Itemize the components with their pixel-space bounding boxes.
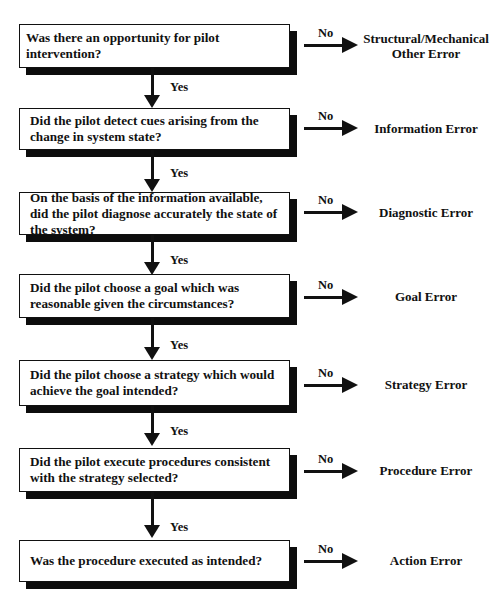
yes-label: Yes: [170, 520, 188, 535]
outcome-information-error: Information Error: [358, 121, 494, 136]
no-label: No: [318, 366, 333, 381]
arrow-down-icon: [144, 525, 160, 538]
arrow-right-icon: [342, 463, 358, 479]
arrow-down-icon: [144, 433, 160, 446]
no-arrow-shaft: [304, 44, 344, 47]
yes-label: Yes: [170, 166, 188, 181]
no-label: No: [318, 26, 333, 41]
yes-label: Yes: [170, 80, 188, 95]
no-label: No: [318, 109, 333, 124]
decision-text: Did the pilot choose a goal which was re…: [30, 280, 279, 312]
decision-text: Did the pilot detect cues arising from t…: [30, 113, 279, 145]
no-label: No: [318, 542, 333, 557]
decision-text: Was the procedure executed as intended?: [30, 553, 262, 569]
arrow-right-icon: [342, 204, 358, 220]
decision-box-execute-procedures: Did the pilot execute procedures consist…: [19, 448, 290, 492]
arrow-right-icon: [342, 289, 358, 305]
yes-arrow-shaft: [151, 406, 154, 436]
decision-box-choose-strategy: Did the pilot choose a strategy which wo…: [19, 360, 290, 406]
no-arrow-shaft: [304, 470, 344, 473]
yes-label: Yes: [170, 338, 188, 353]
decision-box-detect-cues: Did the pilot detect cues arising from t…: [19, 108, 290, 150]
no-label: No: [318, 452, 333, 467]
yes-arrow-shaft: [151, 150, 154, 182]
yes-label: Yes: [170, 253, 188, 268]
arrow-right-icon: [342, 37, 358, 53]
no-label: No: [318, 193, 333, 208]
no-label: No: [318, 278, 333, 293]
decision-text: Was there an opportunity for pilot inter…: [26, 30, 283, 62]
decision-text: Did the pilot execute procedures consist…: [30, 454, 279, 486]
yes-arrow-shaft: [151, 68, 154, 98]
decision-box-pilot-intervention: Was there an opportunity for pilot inter…: [19, 24, 290, 68]
no-arrow-shaft: [304, 384, 344, 387]
arrow-down-icon: [144, 95, 160, 108]
yes-arrow-shaft: [151, 492, 154, 528]
outcome-diagnostic-error: Diagnostic Error: [358, 205, 494, 220]
outcome-action-error: Action Error: [358, 553, 494, 568]
decision-box-procedure-executed: Was the procedure executed as intended?: [19, 540, 290, 582]
no-arrow-shaft: [304, 560, 344, 563]
decision-text: On the basis of the information availabl…: [30, 190, 279, 238]
outcome-structural-mechanical-error: Structural/Mechanical Other Error: [358, 31, 494, 61]
decision-box-choose-goal: Did the pilot choose a goal which was re…: [19, 274, 290, 318]
no-arrow-shaft: [304, 211, 344, 214]
arrow-right-icon: [342, 553, 358, 569]
arrow-right-icon: [342, 120, 358, 136]
outcome-line-1: Structural/Mechanical: [358, 31, 494, 46]
decision-box-diagnose-state: On the basis of the information availabl…: [19, 192, 290, 235]
no-arrow-shaft: [304, 296, 344, 299]
yes-arrow-shaft: [151, 318, 154, 350]
outcome-strategy-error: Strategy Error: [358, 377, 494, 392]
arrow-right-icon: [342, 377, 358, 393]
decision-text: Did the pilot choose a strategy which wo…: [30, 367, 279, 399]
arrow-down-icon: [144, 347, 160, 360]
outcome-procedure-error: Procedure Error: [358, 463, 494, 478]
yes-arrow-shaft: [151, 235, 154, 265]
outcome-line-2: Other Error: [358, 46, 494, 61]
no-arrow-shaft: [304, 127, 344, 130]
yes-label: Yes: [170, 424, 188, 439]
outcome-goal-error: Goal Error: [358, 289, 494, 304]
